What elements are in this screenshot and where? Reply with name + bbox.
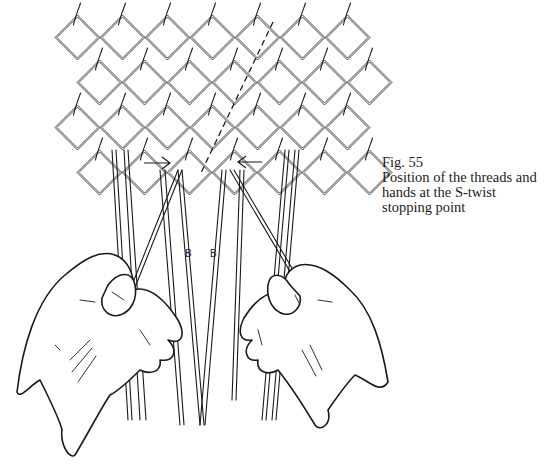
mesh-cell-inner	[349, 62, 390, 103]
mesh-cell-inner	[147, 17, 188, 58]
mesh-cell-inner	[192, 17, 233, 58]
mesh-cell	[280, 105, 325, 150]
mesh-cell-inner	[79, 62, 120, 103]
mesh-twist	[96, 138, 103, 160]
mesh-twist	[186, 48, 193, 70]
right-hand	[240, 265, 388, 428]
mesh-cell	[190, 15, 235, 60]
mesh-twist	[299, 3, 306, 25]
mesh-twist	[186, 138, 193, 160]
mesh-cell-inner	[124, 62, 165, 103]
mesh-twist	[164, 3, 171, 25]
thread-mesh	[55, 3, 392, 195]
mesh-twist	[344, 93, 351, 115]
mesh-cell-inner	[282, 17, 323, 58]
thread-label-b-right: B	[210, 248, 217, 259]
mesh-twist	[96, 48, 103, 70]
mesh-cell	[167, 150, 212, 195]
mesh-cell	[302, 150, 347, 195]
mesh-twist	[344, 3, 351, 25]
mesh-cell-inner	[304, 62, 345, 103]
caption-line: stopping point	[382, 200, 547, 215]
mesh-twist	[366, 138, 373, 160]
mesh-cell	[100, 105, 145, 150]
mesh-cell	[235, 105, 280, 150]
mesh-cell	[122, 60, 167, 105]
mesh-twist	[321, 138, 328, 160]
mesh-cell	[145, 105, 190, 150]
mesh-cell-inner	[102, 107, 143, 148]
mesh-cell	[190, 105, 235, 150]
mesh-twist	[254, 93, 261, 115]
mesh-cell	[325, 15, 370, 60]
mesh-cell-inner	[327, 107, 368, 148]
caption-line: hands at the S-twist	[382, 185, 547, 200]
mesh-twist	[119, 3, 126, 25]
mesh-cell	[77, 150, 122, 195]
mesh-twist	[74, 93, 81, 115]
mesh-twist	[209, 3, 216, 25]
mesh-cell	[55, 15, 100, 60]
figure-illustration: B B	[0, 0, 549, 471]
mesh-cell	[325, 105, 370, 150]
figure-caption: Fig. 55 Position of the threads and hand…	[382, 155, 547, 215]
mesh-cell-inner	[214, 62, 255, 103]
mesh-cell	[167, 60, 212, 105]
mesh-cell-inner	[327, 17, 368, 58]
mesh-twist	[276, 48, 283, 70]
left-hand	[17, 254, 182, 456]
mesh-cell-inner	[57, 17, 98, 58]
mesh-cell	[302, 60, 347, 105]
mesh-twist	[164, 93, 171, 115]
thread-label-b-left: B	[185, 248, 192, 259]
mesh-twist	[141, 48, 148, 70]
figure-number: Fig. 55	[382, 155, 547, 170]
mesh-cell-inner	[169, 62, 210, 103]
mesh-cell	[145, 15, 190, 60]
mesh-cell	[257, 60, 302, 105]
mesh-cell-inner	[282, 107, 323, 148]
mesh-twist	[276, 138, 283, 160]
mesh-twist	[299, 93, 306, 115]
mesh-cell	[55, 105, 100, 150]
mesh-cell-inner	[304, 152, 345, 193]
mesh-cell-inner	[259, 62, 300, 103]
mesh-twist	[321, 48, 328, 70]
mesh-cell	[212, 150, 257, 195]
mesh-twist	[74, 3, 81, 25]
caption-line: Position of the threads and	[382, 170, 547, 185]
mesh-twist	[254, 3, 261, 25]
mesh-cell-inner	[57, 107, 98, 148]
mesh-cell	[77, 60, 122, 105]
mesh-cell	[100, 15, 145, 60]
mesh-twist	[141, 138, 148, 160]
mesh-twist	[231, 48, 238, 70]
mesh-twist	[209, 93, 216, 115]
mesh-cell	[280, 15, 325, 60]
mesh-cell-inner	[102, 17, 143, 58]
mesh-cell-inner	[147, 107, 188, 148]
left-arrow-icon	[238, 156, 262, 168]
mesh-cell-inner	[192, 107, 233, 148]
mesh-twist	[231, 138, 238, 160]
right-arrow-icon	[144, 157, 170, 169]
mesh-twist	[366, 48, 373, 70]
mesh-cell	[347, 60, 392, 105]
mesh-cell	[212, 60, 257, 105]
mesh-cell-inner	[237, 107, 278, 148]
mesh-twist	[119, 93, 126, 115]
